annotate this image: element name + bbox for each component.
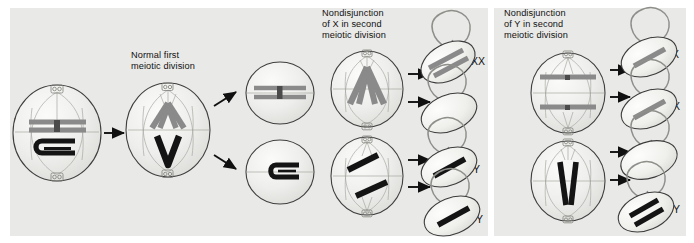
cell-x-nondisjunction-anaphase2 <box>331 50 403 130</box>
arrow-to-secondary-y <box>214 155 236 169</box>
cell-primary-spermatocyte <box>13 85 101 181</box>
cell-x-normal-anaphase2 <box>531 51 605 135</box>
arrow-to-secondary-x <box>214 92 236 106</box>
cell-anaphase-one <box>126 83 210 178</box>
sperm-right-1-x <box>615 8 682 85</box>
figure-canvas: Normal first meiotic division Nondisjunc… <box>0 0 694 243</box>
cell-secondary-spermatocyte-y <box>246 140 314 204</box>
cell-y-normal-anaphase2 <box>331 136 403 217</box>
cell-secondary-spermatocyte-x <box>246 62 314 124</box>
diagram-graphics: .cellBody{fill:url(#cellGrad);stroke:#3f… <box>0 0 694 243</box>
cell-y-nondisjunction-anaphase2 <box>531 139 605 223</box>
sperm-left-1-xx <box>414 11 482 92</box>
